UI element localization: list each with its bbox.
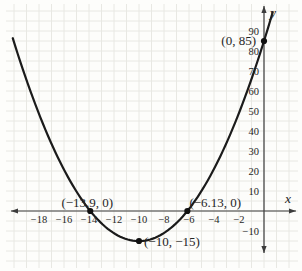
y-axis-arrow-top [261, 6, 266, 13]
x-tick-label: −4 [208, 214, 220, 225]
y-tick-label: 40 [249, 126, 260, 137]
data-point-dot [261, 38, 267, 44]
y-tick-label: −10 [243, 226, 259, 237]
parabola-figure: (−13.9, 0)(−6.13, 0)(−10, −15)(0, 85)−18… [0, 0, 302, 271]
x-tick-label: −14 [81, 214, 98, 225]
data-point-label: (−6.13, 0) [189, 195, 241, 210]
x-tick-label: −18 [31, 214, 47, 225]
y-tick-label: 30 [249, 146, 260, 157]
y-tick-label: 50 [249, 106, 260, 117]
y-tick-label: 10 [249, 186, 260, 197]
x-tick-label: −2 [233, 214, 244, 225]
y-tick-label: 70 [249, 66, 260, 77]
y-tick-label: 80 [249, 46, 260, 57]
x-axis-label: x [284, 191, 291, 206]
data-point-dot [136, 238, 142, 244]
x-tick-label: −16 [56, 214, 72, 225]
y-tick-label: 60 [249, 86, 260, 97]
y-axis-label: y [268, 5, 276, 20]
x-axis-arrow-right [289, 208, 296, 213]
x-tick-label: −8 [158, 214, 169, 225]
parabola-graph: (−13.9, 0)(−6.13, 0)(−10, −15)(0, 85)−18… [0, 0, 302, 271]
y-tick-label: 90 [249, 26, 260, 37]
x-tick-label: −12 [106, 214, 122, 225]
y-axis-arrow-bottom [261, 246, 266, 253]
data-point-label: (−10, −15) [144, 234, 200, 249]
data-point-label: (−13.9, 0) [61, 195, 113, 210]
x-tick-label: −10 [131, 214, 147, 225]
y-tick-label: 20 [249, 166, 260, 177]
x-tick-label: −6 [183, 214, 194, 225]
